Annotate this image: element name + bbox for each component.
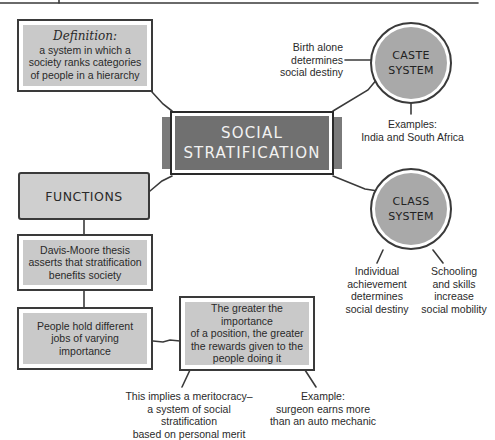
class-system-node: CLASS SYSTEM	[370, 168, 452, 250]
caste-system-node: CASTE SYSTEM	[370, 22, 452, 104]
definition-title: Definition:	[53, 30, 117, 43]
definition-box: Definition: a system in which a society …	[17, 19, 153, 92]
meritocracy-note: This implies a meritocracy– a system of …	[118, 390, 260, 440]
definition-line: society ranks categories	[29, 56, 142, 69]
definition-line: of people in a hierarchy	[30, 69, 139, 82]
decorative-tab-right	[334, 117, 342, 169]
caste-label-line1: CASTE	[392, 48, 429, 63]
functions-node: FUNCTIONS	[18, 172, 150, 220]
rewards-box: The greater the importance of a position…	[179, 296, 315, 371]
central-node-social-stratification: SOCIAL STRATIFICATION	[170, 111, 334, 175]
central-title-line1: SOCIAL	[221, 123, 283, 143]
caste-label-line2: SYSTEM	[388, 63, 434, 78]
jobs-importance-box: People hold different jobs of varying im…	[17, 307, 153, 370]
surgeon-example-note: Example: surgeon earns more than an auto…	[263, 390, 383, 428]
functions-title: FUNCTIONS	[45, 189, 122, 204]
class-note-achievement: Individual achievement determines social…	[341, 265, 413, 315]
central-title-line2: STRATIFICATION	[183, 143, 320, 163]
caste-note-birth: Birth alone determines social destiny	[258, 41, 343, 79]
decorative-tab-left	[162, 117, 170, 169]
definition-line: a system in which a	[39, 44, 131, 57]
class-label-line2: SYSTEM	[388, 209, 434, 224]
class-label-line1: CLASS	[392, 194, 429, 209]
caste-note-examples: Examples: India and South Africa	[350, 118, 475, 143]
class-note-schooling: Schooling and skills increase social mob…	[415, 265, 493, 315]
davis-moore-box: Davis-Moore thesis asserts that stratifi…	[17, 234, 153, 291]
